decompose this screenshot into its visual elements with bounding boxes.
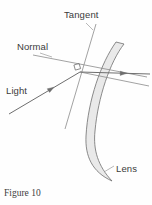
label-normal: Normal <box>17 41 48 52</box>
label-lens: Lens <box>116 163 137 174</box>
refracted-ray <box>80 72 150 74</box>
figure-caption: Figure 10 <box>4 188 41 198</box>
tangent-leader-line <box>86 23 93 30</box>
refracted-ray-arrow-icon <box>120 71 127 75</box>
incident-ray-arrow-icon <box>47 87 54 92</box>
label-tangent: Tangent <box>64 9 99 20</box>
lens-shape <box>86 42 124 181</box>
lens-leader-line <box>104 166 114 172</box>
label-light: Light <box>6 85 27 96</box>
optics-diagram <box>0 0 152 205</box>
right-angle-marker-icon <box>74 64 81 71</box>
figure-container: Tangent Normal Light Lens Figure 10 <box>0 0 152 205</box>
